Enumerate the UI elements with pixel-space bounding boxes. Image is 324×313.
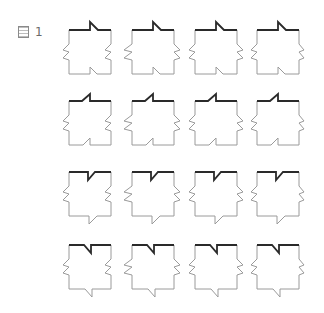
puzzle-shape-r1-c4: [251, 22, 304, 74]
highlighted-top-edge: [69, 172, 111, 180]
shape-outline: [124, 30, 180, 74]
highlighted-top-edge: [132, 22, 174, 30]
shape-outline: [251, 245, 304, 297]
highlighted-top-edge: [132, 172, 174, 180]
shape-outline: [63, 101, 111, 145]
highlighted-top-edge: [195, 94, 237, 101]
shape-outline: [124, 101, 180, 145]
highlighted-top-edge: [257, 94, 299, 101]
highlighted-top-edge: [132, 94, 174, 101]
highlighted-top-edge: [195, 172, 237, 180]
puzzle-shape-r1-c2: [124, 22, 180, 74]
puzzle-shape-r2-c3: [189, 94, 243, 145]
highlighted-top-edge: [195, 245, 237, 253]
puzzle-shape-r3-c4: [251, 172, 304, 224]
shape-outline: [251, 101, 304, 145]
puzzle-shape-r4-c2: [124, 245, 180, 297]
puzzle-shape-r1-c1: [63, 22, 111, 74]
puzzle-shape-r1-c3: [189, 22, 243, 74]
shape-outline: [63, 245, 111, 297]
highlighted-top-edge: [69, 22, 111, 30]
highlighted-top-edge: [195, 22, 237, 30]
shape-outline: [251, 172, 304, 224]
highlighted-top-edge: [69, 94, 111, 101]
highlighted-top-edge: [132, 245, 174, 253]
shape-outline: [189, 172, 243, 224]
shape-outline: [63, 172, 111, 224]
highlighted-top-edge: [69, 245, 111, 253]
highlighted-top-edge: [257, 172, 299, 180]
shape-grid: [0, 0, 324, 313]
highlighted-top-edge: [257, 245, 299, 253]
puzzle-shape-r2-c2: [124, 94, 180, 145]
shape-outline: [189, 30, 243, 74]
puzzle-shape-r4-c4: [251, 245, 304, 297]
puzzle-shape-r4-c3: [189, 245, 243, 297]
puzzle-shape-r2-c1: [63, 94, 111, 145]
puzzle-shape-r2-c4: [251, 94, 304, 145]
shape-outline: [189, 101, 243, 145]
puzzle-shape-r3-c2: [124, 172, 180, 224]
shape-outline: [251, 30, 304, 74]
puzzle-shape-r3-c1: [63, 172, 111, 224]
puzzle-shape-r4-c1: [63, 245, 111, 297]
puzzle-shape-r3-c3: [189, 172, 243, 224]
shape-outline: [124, 245, 180, 297]
highlighted-top-edge: [257, 22, 299, 30]
shape-outline: [63, 30, 111, 74]
